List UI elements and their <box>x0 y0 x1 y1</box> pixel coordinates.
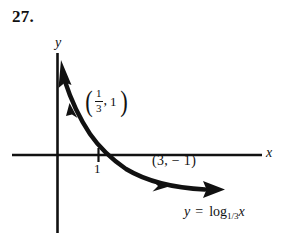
coordinate-y-value: 1 <box>110 95 117 108</box>
equation-argument: x <box>239 205 245 219</box>
logarithmic-function-graph <box>0 0 290 234</box>
equation-log-base: 1/3 <box>227 212 239 221</box>
point-label-one-third-one: ( 1 3 , 1 ) <box>84 88 129 114</box>
fraction-one-third: 1 3 <box>95 88 103 114</box>
coordinate-comma: , <box>104 94 108 108</box>
y-axis-label: y <box>55 36 61 50</box>
equation-lhs: y <box>184 205 190 219</box>
x-axis-label: x <box>266 146 272 160</box>
equation-label: y = log 1/3 x <box>184 205 245 219</box>
point-label-three-negative-one: (3, − 1) <box>152 154 196 168</box>
fraction-numerator: 1 <box>95 88 103 100</box>
fraction-denominator: 3 <box>95 103 103 115</box>
close-paren: ) <box>120 88 128 114</box>
open-paren: ( <box>85 88 93 114</box>
x-axis-tick-label-1: 1 <box>94 162 101 175</box>
equation-log-function: log <box>209 205 227 219</box>
equation-equals-sign: = <box>195 205 203 219</box>
